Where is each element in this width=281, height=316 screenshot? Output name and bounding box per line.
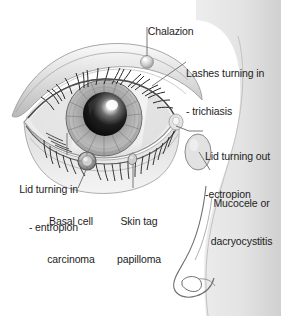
label-ectropion-line-1: Lid turning out bbox=[205, 150, 281, 163]
basal-cell-carcinoma-marker bbox=[78, 152, 96, 170]
label-mucocele-line-1: Mucocele or bbox=[202, 197, 281, 210]
iris bbox=[66, 80, 142, 156]
label-trichiasis-line-2: - trichiasis bbox=[186, 105, 281, 118]
eyelid-disorders-diagram: Chalazion Lashes turning in - trichiasis… bbox=[0, 0, 281, 316]
label-basal-cell-carcinoma: Basal cell carcinoma bbox=[36, 190, 106, 290]
chalazion-marker bbox=[141, 56, 154, 69]
label-mucocele-line-2: dacryocystitis bbox=[202, 235, 281, 248]
label-skin-tag-line-1: Skin tag bbox=[107, 215, 171, 228]
corneal-light-reflex bbox=[106, 100, 118, 110]
label-mucocele: Mucocele or dacryocystitis bbox=[202, 172, 281, 272]
label-chalazion-line-1: Chalazion bbox=[148, 25, 194, 37]
label-basal-cell-line-2: carcinoma bbox=[36, 253, 106, 266]
label-skin-tag-line-2: papilloma bbox=[107, 253, 171, 266]
label-basal-cell-line-1: Basal cell bbox=[36, 215, 106, 228]
label-skin-tag-papilloma: Skin tag papilloma bbox=[107, 190, 171, 290]
pupil bbox=[83, 92, 127, 136]
label-trichiasis-line-1: Lashes turning in bbox=[186, 67, 281, 80]
